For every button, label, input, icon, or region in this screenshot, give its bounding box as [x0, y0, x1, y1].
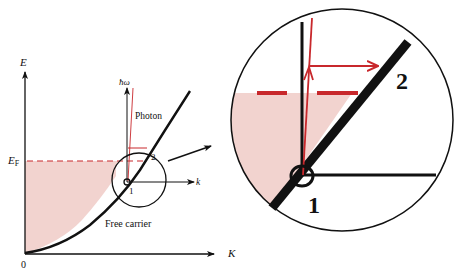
state-1-label: 1	[129, 186, 134, 196]
photon-transition-line	[128, 88, 133, 181]
wavevector-axis-label: K	[227, 247, 236, 259]
state-2-label: 2	[151, 152, 156, 162]
filled-states-region-upper	[25, 161, 116, 253]
band-diagram-panel: E K 0 EF ħω Photon k 1 2 Free carrier	[7, 56, 236, 270]
photon-energy-label: ħω	[119, 77, 130, 87]
free-carrier-absorption-diagram: E K 0 EF ħω Photon k 1 2 Free carrier	[0, 0, 465, 275]
magnified-state-1-label: 1	[308, 192, 320, 218]
origin-label: 0	[21, 259, 26, 270]
zoom-pointer-arrow	[168, 146, 211, 161]
magnified-state-2-label: 2	[396, 68, 408, 94]
free-carrier-label: Free carrier	[105, 218, 152, 229]
magnified-panel: 1 2	[225, 9, 453, 240]
local-k-axis-label: k	[196, 177, 201, 187]
photon-label: Photon	[135, 111, 162, 121]
fermi-level-label: EF	[7, 154, 20, 168]
energy-axis-label: E	[19, 56, 27, 68]
